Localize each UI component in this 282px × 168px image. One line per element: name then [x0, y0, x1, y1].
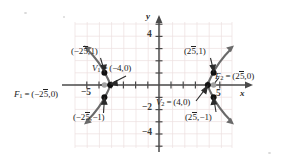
x-axis-label: x	[240, 89, 244, 98]
y-axis-label: y	[146, 12, 150, 21]
label-upper-right-point: (25, 1)	[184, 46, 206, 56]
hyperbola-figure	[0, 0, 282, 168]
focus-point-left	[102, 82, 108, 88]
label-vertex-right: V2 = (4, 0)	[156, 98, 190, 108]
axes	[62, 15, 253, 152]
x-tick-label-5: 5	[216, 89, 221, 99]
label-focus-right: F2 = (25, 0)	[215, 71, 254, 82]
y-axis-arrow	[156, 15, 163, 23]
x-tick-label-neg5: −5	[81, 88, 91, 98]
x-axis-arrow	[245, 82, 253, 89]
focus-point-right	[211, 82, 217, 88]
label-upper-left-point: (−25, 1)	[71, 46, 98, 56]
label-focus-left: F1 = (−25, 0)	[14, 89, 58, 100]
y-tick-label-4: 4	[147, 30, 152, 40]
label-lower-right-point: (25, −1)	[185, 112, 212, 122]
label-lower-left-point: (−25, −1)	[73, 112, 104, 122]
y-tick-label-neg2: −2	[142, 103, 152, 113]
label-vertex-left: V1 = (−4, 0)	[92, 64, 131, 74]
y-tick-label-neg4: −4	[142, 128, 152, 138]
